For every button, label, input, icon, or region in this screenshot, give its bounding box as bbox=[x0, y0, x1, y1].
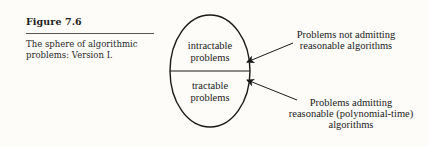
sphere-diagram: intractable problems tractable problems … bbox=[0, 0, 429, 146]
tractable-label-2: problems bbox=[190, 92, 229, 103]
annotation-upper-1: Problems not admitting bbox=[297, 29, 396, 40]
intractable-label-1: intractable bbox=[188, 40, 233, 51]
annotation-lower-1: Problems admitting bbox=[310, 97, 393, 108]
arrow-upper bbox=[247, 43, 293, 62]
tractable-label-1: tractable bbox=[192, 80, 228, 91]
annotation-lower-3: algorithms bbox=[329, 119, 374, 130]
annotation-upper-2: reasonable algorithms bbox=[300, 40, 392, 51]
intractable-label-2: problems bbox=[190, 52, 229, 63]
arrow-lower bbox=[247, 80, 297, 100]
